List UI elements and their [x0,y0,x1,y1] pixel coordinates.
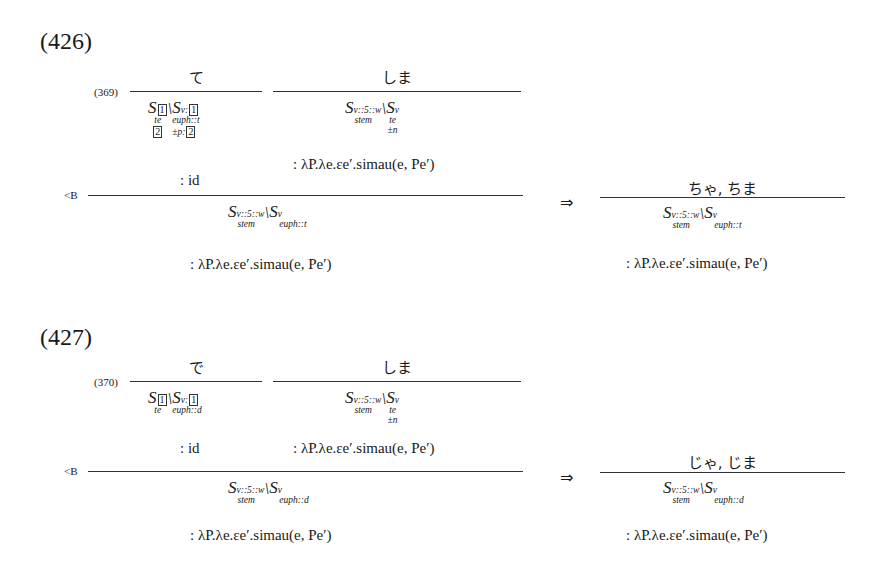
feature-label: stem [673,221,690,231]
feature-label: v [395,105,399,115]
feature-label: ±p: [172,127,185,137]
category-right: Sv::5::wstem\Svte±n [345,389,399,425]
feature-label: euph::d [714,496,744,506]
feature-label: v::5::w [354,395,382,405]
lexical-item-te: て [130,66,262,87]
rule-reference: (369) [94,86,118,98]
contracted-lexical-item: じゃ, じま [600,451,845,472]
rule-label: <B [64,465,78,477]
feature-label: euph::t [714,221,741,231]
example-number: (427) [40,324,92,351]
semantics-right: : λP.λe.εe′.simau(e, Pe′) [293,156,435,173]
category-left: S1te\Sv:1euph::d [148,389,202,416]
feature-label: v::5::w [237,209,265,219]
semantics-contracted: : λP.λe.εe′.simau(e, Pe′) [626,527,768,544]
cat-symbol: S [269,202,278,221]
feature-label: te [154,406,161,416]
semantics-left: : id [180,440,200,457]
lexical-item-de: で [130,356,262,377]
feature-label: ±n [388,126,398,136]
category-right: Sv::5::wstem\Svte±n [345,99,399,135]
category-contracted: Sv::5::wstem\Sveuph::d [663,479,744,506]
cat-symbol: S [663,478,672,497]
feature-label: stem [355,116,372,126]
composition-line [88,471,523,472]
cat-symbol: S [704,203,713,222]
inference-line [273,91,521,92]
feature-label: euph::t [279,220,306,230]
feature-label: stem [238,496,255,506]
inference-line [600,472,845,473]
feature-label: v [395,395,399,405]
lexical-item-shima: しま [273,66,521,87]
feature-label: euph::d [279,496,309,506]
cat-symbol: S [228,478,237,497]
rewrite-arrow-icon: ⇒ [560,193,573,212]
contracted-lexical-item: ちゃ, ちま [600,177,845,198]
inference-line [600,197,845,198]
cat-symbol: S [228,202,237,221]
feature-label: ±n [388,416,398,426]
feature-label: v: [181,105,188,115]
rewrite-arrow-icon: ⇒ [560,468,573,487]
inference-line [273,381,521,382]
feature-label: v: [181,395,188,405]
category-result: Sv::5::wstem\Sveuph::d [228,479,309,506]
feature-label: euph::d [172,406,202,416]
lexical-item-shima: しま [273,356,521,377]
feature-label: v::5::w [672,485,700,495]
category-left: S1te2\Sv:1euph::t±p:2 [148,99,200,138]
inference-line [130,91,262,92]
rule-reference: (370) [94,376,118,388]
feature-label: euph::t [172,116,199,126]
feature-box: 2 [186,126,195,138]
feature-label: stem [673,496,690,506]
semantics-left: : id [180,172,200,189]
feature-label: stem [238,220,255,230]
cat-symbol: S [269,478,278,497]
feature-box: 2 [153,126,162,138]
semantics-result: : λP.λe.εe′.simau(e, Pe′) [190,256,332,273]
semantics-right: : λP.λe.εe′.simau(e, Pe′) [293,440,435,457]
cat-symbol: S [704,478,713,497]
cat-symbol: S [663,203,672,222]
semantics-result: : λP.λe.εe′.simau(e, Pe′) [190,527,332,544]
inference-line [130,381,262,382]
feature-label: v::5::w [237,485,265,495]
rule-label: <B [64,189,78,201]
cat-symbol: S [345,388,354,407]
feature-label: stem [355,406,372,416]
semantics-contracted: : λP.λe.εe′.simau(e, Pe′) [626,255,768,272]
composition-line [88,195,523,196]
feature-label: v [713,210,717,220]
feature-label: v [278,209,282,219]
category-result: Sv::5::wstem\Sveuph::t [228,203,307,230]
feature-label: v [278,485,282,495]
category-contracted: Sv::5::wstem\Sveuph::t [663,204,742,231]
feature-label: v::5::w [354,105,382,115]
feature-label: v [713,485,717,495]
feature-label: te [154,116,161,126]
example-number: (426) [40,28,92,55]
cat-symbol: S [345,98,354,117]
feature-label: v::5::w [672,210,700,220]
